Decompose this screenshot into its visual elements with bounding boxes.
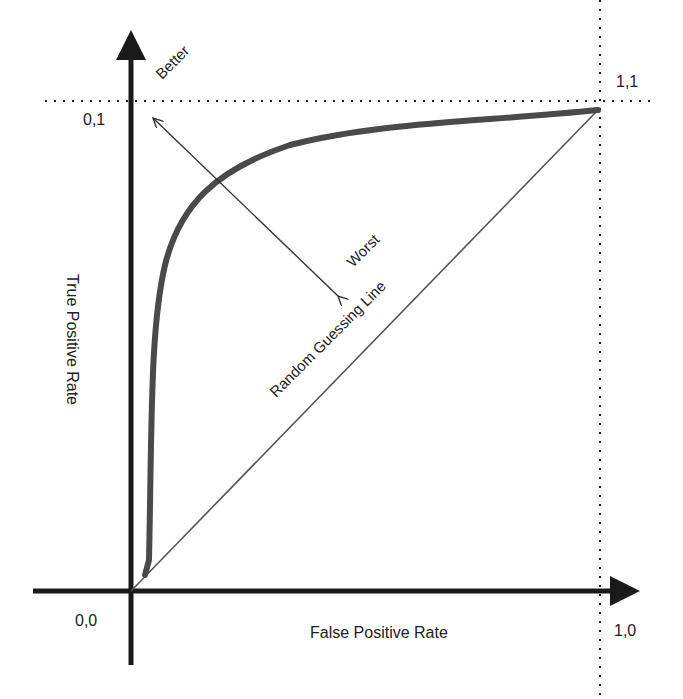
better-worst-arrow xyxy=(153,118,338,296)
corner-label-origin: 0,0 xyxy=(75,612,97,629)
worst-label: Worst xyxy=(343,230,383,270)
better-label: Better xyxy=(152,42,192,82)
random-guessing-line-label: Random Guessing Line xyxy=(266,277,389,400)
y-axis-label: True Positive Rate xyxy=(64,274,81,405)
corner-label-bottom-right: 1,0 xyxy=(614,622,636,639)
corner-label-top-right: 1,1 xyxy=(616,73,638,90)
x-axis-label: False Positive Rate xyxy=(310,624,448,641)
roc-diagram: Better Worst Random Guessing Line 0,1 1,… xyxy=(0,0,683,699)
corner-label-top-left: 0,1 xyxy=(83,111,105,128)
random-guessing-line xyxy=(131,111,597,591)
